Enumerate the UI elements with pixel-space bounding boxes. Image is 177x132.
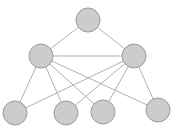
nodes-layer (3, 8, 170, 125)
node-bottom-2 (54, 101, 78, 125)
node-bottom-3 (91, 100, 115, 124)
node-bottom-4 (146, 98, 170, 122)
node-mid-left (29, 44, 53, 68)
node-mid-right (122, 44, 146, 68)
node-bottom-1 (3, 101, 27, 125)
node-top (76, 8, 100, 32)
network-diagram (0, 0, 177, 132)
